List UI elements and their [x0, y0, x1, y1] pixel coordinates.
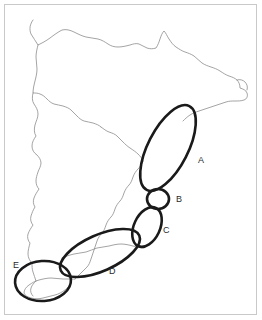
- region-ellipse-e[interactable]: [14, 259, 73, 303]
- coastline-west-inland: [33, 45, 101, 127]
- region-label-d: D: [109, 266, 116, 276]
- map-canvas: A B C D E: [0, 0, 262, 320]
- coastline-south-river: [75, 161, 143, 279]
- region-ellipse-a[interactable]: [129, 97, 207, 199]
- region-label-a: A: [198, 155, 204, 165]
- region-ellipse-d[interactable]: [53, 219, 146, 287]
- region-label-b: B: [176, 194, 182, 204]
- region-label-c: C: [163, 225, 170, 235]
- coastline-central-boundary: [101, 127, 143, 161]
- coastline-group: [24, 20, 247, 299]
- region-label-e: E: [13, 260, 19, 270]
- coastline-west-indent: [28, 93, 41, 281]
- map-figure: A B C D E: [0, 0, 262, 320]
